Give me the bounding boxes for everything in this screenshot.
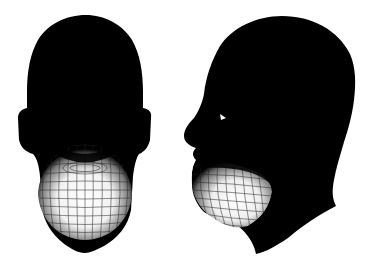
side-head-silhouette bbox=[184, 16, 355, 254]
front-head bbox=[18, 15, 151, 253]
head-mesh-figure bbox=[0, 0, 373, 271]
side-head bbox=[184, 16, 355, 254]
